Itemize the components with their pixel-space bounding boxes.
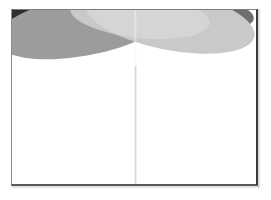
scanned-document-canvas [0, 0, 271, 200]
scan-shadow-bottom [12, 186, 259, 189]
page-body-blank [12, 66, 256, 184]
book-gutter-fold-upper [134, 10, 137, 66]
scan-shadow-right [258, 9, 261, 188]
decorative-header-artwork [12, 10, 256, 66]
page-sheet [11, 9, 258, 186]
page-body-text [12, 66, 13, 67]
book-gutter-fold [134, 66, 137, 184]
